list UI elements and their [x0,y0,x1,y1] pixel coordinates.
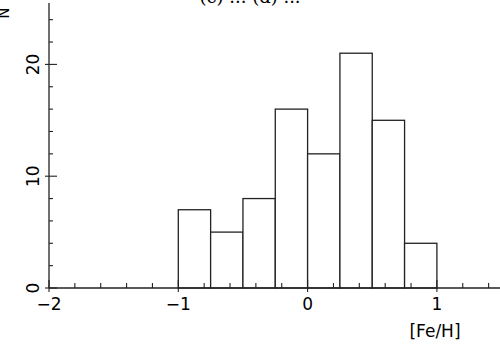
histogram-bar [275,109,307,288]
x-axis-label: [Fe/H] [409,321,460,341]
chart-title-clipped: (c) ... (d) ... [0,0,500,7]
histogram-chart: −2−10101020 [Fe/H] N [0,0,500,345]
x-tick-label: −1 [166,294,191,314]
y-tick-label: 20 [23,54,43,76]
histogram-bars [178,53,437,288]
histogram-bar [308,154,340,288]
histogram-bar [340,53,372,288]
y-tick-label: 0 [23,283,43,294]
y-tick-label: 10 [23,165,43,187]
histogram-bar [405,243,437,288]
y-axis-label: N [0,7,13,18]
histogram-bar [243,199,275,288]
x-tick-label: 1 [431,294,442,314]
histogram-bar [211,232,243,288]
x-tick-label: 0 [302,294,313,314]
x-tick-label: −2 [36,294,61,314]
histogram-bar [372,120,404,288]
histogram-bar [178,210,210,288]
